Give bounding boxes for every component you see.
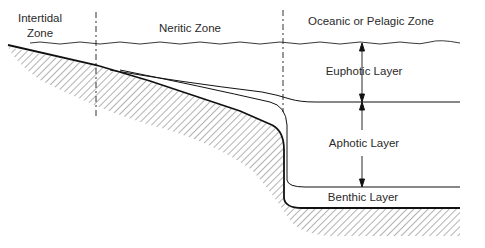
benthic-layer-label: Benthic Layer: [328, 190, 398, 205]
intertidal-label-line1: Intertidal: [18, 11, 62, 26]
diagram-graphics: [0, 0, 485, 248]
aphotic-layer-label: Aphotic Layer: [329, 136, 399, 151]
neritic-zone-label: Neritic Zone: [159, 21, 221, 36]
oceanic-zone-label: Oceanic or Pelagic Zone: [308, 14, 434, 29]
intertidal-label-line2: Zone: [18, 26, 62, 41]
intertidal-zone-label: Intertidal Zone: [18, 11, 62, 41]
water-surface: [30, 41, 460, 44]
euphotic-layer-label: Euphotic Layer: [326, 64, 403, 79]
ocean-zones-diagram: Intertidal Zone Neritic Zone Oceanic or …: [0, 0, 485, 248]
